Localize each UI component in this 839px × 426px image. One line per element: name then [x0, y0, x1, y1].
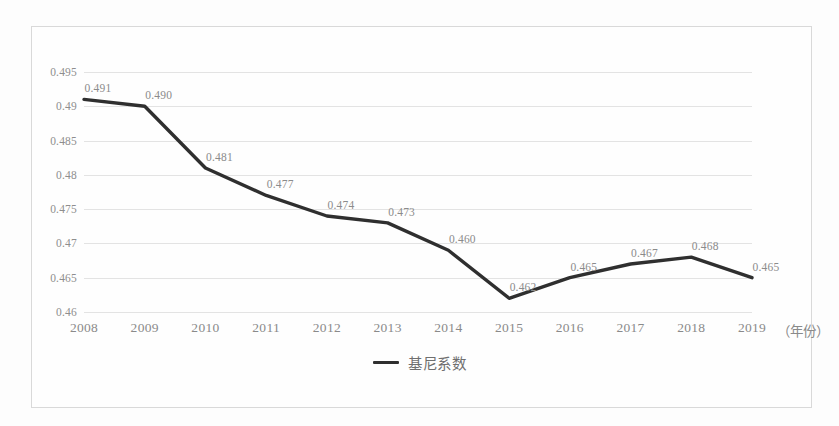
chart-legend: 基尼系数: [0, 352, 839, 373]
y-axis-tick-label: 0.47: [56, 237, 77, 249]
x-axis-tick-label: 2018: [677, 320, 705, 336]
data-point-label: 0.460: [449, 233, 476, 245]
x-axis-tick-label: 2010: [191, 320, 219, 336]
data-point-label: 0.467: [631, 247, 658, 259]
legend-line-marker: [373, 361, 399, 365]
data-point-label: 0.462: [510, 281, 537, 293]
data-point-label: 0.465: [570, 261, 597, 273]
y-axis-tick-label: 0.46: [56, 306, 77, 318]
x-axis-tick-label: 2017: [616, 320, 644, 336]
x-axis-tick-label: 2019: [738, 320, 766, 336]
data-point-label: 0.490: [145, 89, 172, 101]
line-series-gini: [84, 72, 752, 312]
x-axis-tick-label: 2008: [70, 320, 98, 336]
data-point-label: 0.491: [85, 82, 112, 94]
plot-area: 0.4950.490.4850.480.4750.470.4650.46 200…: [84, 72, 752, 312]
y-axis-tick-label: 0.475: [50, 203, 77, 215]
data-point-label: 0.481: [206, 151, 233, 163]
y-axis-tick-label: 0.485: [50, 135, 77, 147]
x-axis-tick-label: 2009: [131, 320, 159, 336]
x-axis-tick-label: 2015: [495, 320, 523, 336]
y-axis-tick-label: 0.465: [50, 272, 77, 284]
x-axis-tick-label: 2011: [252, 320, 280, 336]
data-point-label: 0.473: [388, 206, 415, 218]
x-axis-tick-label: 2012: [313, 320, 341, 336]
data-point-label: 0.465: [753, 261, 780, 273]
y-axis-tick-label: 0.49: [56, 100, 77, 112]
series-polyline: [84, 99, 752, 298]
legend-label-gini: 基尼系数: [408, 352, 466, 373]
data-point-label: 0.468: [692, 240, 719, 252]
x-axis-unit-label: （年份）: [777, 320, 829, 340]
data-point-label: 0.477: [267, 178, 294, 190]
data-point-label: 0.474: [327, 199, 354, 211]
chart-figure: 0.4950.490.4850.480.4750.470.4650.46 200…: [0, 0, 839, 426]
gridline: [84, 312, 752, 313]
x-axis-tick-label: 2013: [374, 320, 402, 336]
y-axis-tick-label: 0.495: [50, 66, 77, 78]
y-axis-tick-label: 0.48: [56, 169, 77, 181]
x-axis-tick-label: 2014: [434, 320, 462, 336]
x-axis-tick-label: 2016: [556, 320, 584, 336]
